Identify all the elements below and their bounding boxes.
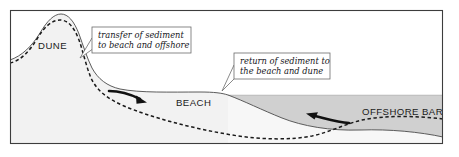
offshore-bar-label: OFFSHORE BAR bbox=[362, 106, 443, 117]
coastal-profile-svg: transfer of sediment to beach and offsho… bbox=[0, 0, 459, 157]
coastal-profile-diagram: transfer of sediment to beach and offsho… bbox=[0, 0, 459, 157]
dune-label: DUNE bbox=[38, 40, 67, 51]
beach-label: BEACH bbox=[176, 97, 211, 108]
transfer-callout-line1: transfer of sediment bbox=[98, 30, 184, 40]
return-callout-line2: the beach and dune bbox=[240, 66, 323, 76]
transfer-callout-line2: to beach and offshore bbox=[98, 40, 189, 50]
return-callout-line1: return of sediment to bbox=[240, 56, 330, 66]
